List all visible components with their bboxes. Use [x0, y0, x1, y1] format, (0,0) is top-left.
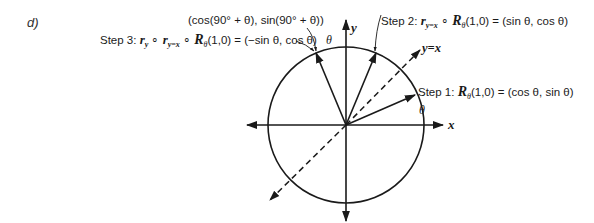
line-y-equals-x-lower [270, 125, 346, 200]
theta-label-step1: θ [419, 103, 425, 117]
vector-step3 [316, 53, 346, 125]
step3-label: Step 3: ry ∘ ry=x ∘ Rθ(1,0) = (−sin θ, c… [100, 32, 317, 49]
y-equals-x-label: y=x [420, 41, 441, 55]
unit-circle-diagram: d) x y y=x θ θ (cos(90° + θ), sin(90° + … [0, 0, 594, 223]
part-label: d) [27, 15, 39, 30]
top-point-label: (cos(90° + θ), sin(90° + θ)) [188, 14, 324, 26]
line-y-equals-x-upper [346, 50, 420, 125]
theta-label-top: θ [326, 33, 332, 47]
x-axis-label: x [447, 117, 455, 132]
step2-label: Step 2: ry=x ∘ Rθ(1,0) = (sin θ, cos θ) [381, 13, 568, 30]
y-axis-label: y [349, 20, 357, 35]
step1-label: Step 1: Rθ(1,0) = (cos θ, sin θ) [418, 84, 574, 101]
